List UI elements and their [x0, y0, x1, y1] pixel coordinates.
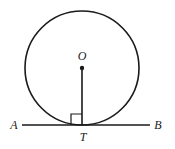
- label-center-o: O: [78, 49, 87, 63]
- label-line-endpoint-b: B: [154, 118, 162, 132]
- circle-tangent-diagram: O T A B: [0, 0, 175, 149]
- right-angle-marker: [71, 114, 82, 125]
- label-tangent-point-t: T: [80, 130, 88, 144]
- geometry-figure: O T A B: [0, 0, 175, 149]
- center-point-dot: [80, 66, 84, 70]
- label-line-endpoint-a: A: [9, 118, 18, 132]
